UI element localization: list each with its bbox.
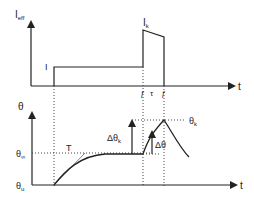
theta-inf-label: θ∞	[16, 149, 25, 160]
delta-theta-k-label: Δθk	[107, 133, 122, 144]
bottom-x-axis-label: t	[240, 180, 243, 191]
delta-theta-label: Δθ	[155, 140, 166, 150]
step-current-label: I	[45, 62, 48, 72]
top-plot	[31, 24, 232, 186]
y-axis-label-ieff: Ieff	[15, 9, 25, 21]
theta-k-label: θk	[189, 116, 198, 127]
top-x-axis-label: t	[238, 81, 241, 92]
axis-break-mark-2: ƒ	[161, 89, 166, 98]
bottom-plot	[32, 115, 234, 185]
time-constant-label: T	[66, 143, 72, 153]
thermal-diagram: Ieff t I Ik τ ƒ ƒ θ t θ∞ θu θk T Δθk Δθ	[0, 0, 254, 201]
current-curve	[54, 30, 164, 86]
theta-axis-label: θ	[18, 101, 24, 112]
theta-u-label: θu	[16, 181, 24, 192]
tau-label: τ	[150, 89, 154, 98]
pulse-current-label: Ik	[143, 17, 150, 29]
axis-break-mark-1: ƒ	[140, 89, 145, 98]
